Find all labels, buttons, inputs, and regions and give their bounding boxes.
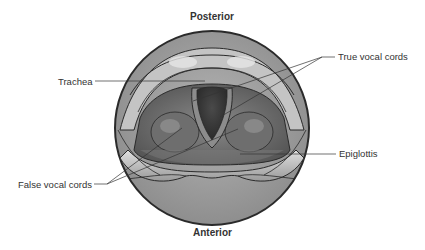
label-anterior: Anterior: [193, 227, 232, 239]
label-true-vocal-cords: True vocal cords: [338, 51, 408, 62]
label-posterior: Posterior: [190, 11, 234, 23]
label-false-vocal-cords: False vocal cords: [18, 179, 92, 190]
label-trachea: Trachea: [58, 76, 93, 87]
larynx-diagram: [0, 0, 425, 250]
label-epiglottis: Epiglottis: [339, 148, 378, 159]
